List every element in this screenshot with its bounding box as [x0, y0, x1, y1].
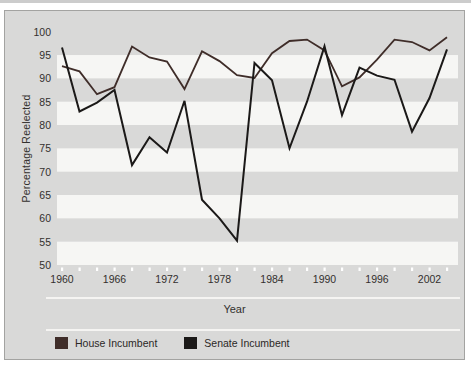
x-tick-label: 1960 [40, 273, 84, 285]
x-minor-tick [61, 268, 63, 272]
y-tick-label: 85 [5, 96, 51, 108]
x-minor-tick [324, 268, 326, 272]
x-minor-tick [236, 268, 238, 272]
y-tick-label: 60 [5, 212, 51, 224]
x-minor-tick [376, 268, 378, 272]
x-minor-tick [79, 268, 81, 272]
y-tick-label: 100 [5, 26, 51, 38]
x-minor-tick [131, 268, 133, 272]
page-top-edge [0, 0, 471, 3]
x-tick-label: 1972 [145, 273, 189, 285]
x-tick-label: 1966 [93, 273, 137, 285]
y-tick-label: 75 [5, 142, 51, 154]
y-tick-label: 50 [5, 259, 51, 271]
x-minor-tick [306, 268, 308, 272]
x-minor-tick [429, 268, 431, 272]
x-minor-tick [411, 268, 413, 272]
stripe-band [57, 242, 458, 265]
x-minor-tick [446, 268, 448, 272]
divider-line-top [46, 297, 460, 299]
x-tick-label: 1978 [198, 273, 242, 285]
x-minor-tick [271, 268, 273, 272]
y-tick-label: 95 [5, 49, 51, 61]
y-tick-label: 70 [5, 166, 51, 178]
x-minor-tick [114, 268, 116, 272]
x-tick-label: 2002 [408, 273, 452, 285]
x-minor-tick [254, 268, 256, 272]
stripe-band [57, 148, 458, 171]
senate-incumbent-legend-swatch [184, 337, 197, 349]
x-minor-tick [184, 268, 186, 272]
y-tick-label: 80 [5, 119, 51, 131]
legend: House Incumbent Senate Incumbent [55, 337, 317, 349]
y-tick-label: 55 [5, 236, 51, 248]
x-axis-title: Year [5, 303, 464, 315]
stripe-band [57, 195, 458, 218]
senate-incumbent-legend-label: Senate Incumbent [204, 337, 289, 349]
x-minor-tick [359, 268, 361, 272]
house-incumbent-legend-label: House Incumbent [75, 337, 157, 349]
x-minor-tick [201, 268, 203, 272]
x-minor-tick [149, 268, 151, 272]
x-minor-tick [394, 268, 396, 272]
y-tick-label: 90 [5, 72, 51, 84]
x-minor-tick [96, 268, 98, 272]
x-tick-label: 1996 [355, 273, 399, 285]
x-minor-tick [166, 268, 168, 272]
divider-line-bottom [46, 329, 460, 331]
figure-panel: Percentage Reelected 1009590858075706560… [4, 10, 465, 360]
x-minor-tick [341, 268, 343, 272]
x-tick-label: 1984 [250, 273, 294, 285]
x-tick-label: 1990 [303, 273, 347, 285]
y-tick-label: 65 [5, 189, 51, 201]
house-incumbent-legend-swatch [55, 337, 68, 349]
x-minor-tick [289, 268, 291, 272]
x-minor-tick [219, 268, 221, 272]
